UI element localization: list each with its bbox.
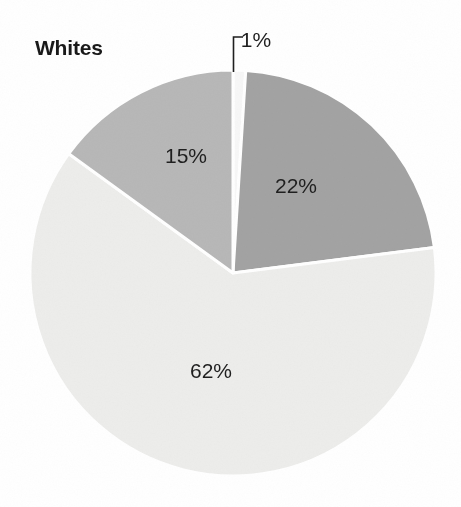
pie-chart-canvas <box>0 0 461 507</box>
chart-title: Whites <box>35 36 103 60</box>
pie-slices <box>30 70 436 476</box>
pie-chart-figure: Whites 1%22%62%15% <box>0 0 461 507</box>
slice-label-22: 22% <box>275 174 317 198</box>
slice-label-1: 1% <box>241 28 271 52</box>
slice-label-62: 62% <box>190 359 232 383</box>
slice-label-15: 15% <box>165 144 207 168</box>
pie-slice-22[interactable] <box>233 70 434 273</box>
